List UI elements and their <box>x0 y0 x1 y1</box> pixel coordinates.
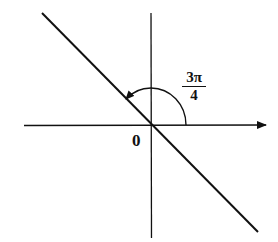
x-axis <box>24 125 266 126</box>
angle-diagram <box>0 0 278 242</box>
angle-numerator: 3π <box>182 70 206 87</box>
angle-line <box>42 13 258 232</box>
angle-label: 3π 4 <box>182 70 206 103</box>
y-axis <box>151 13 152 238</box>
origin-label: 0 <box>132 131 141 151</box>
angle-denominator: 4 <box>182 87 206 103</box>
